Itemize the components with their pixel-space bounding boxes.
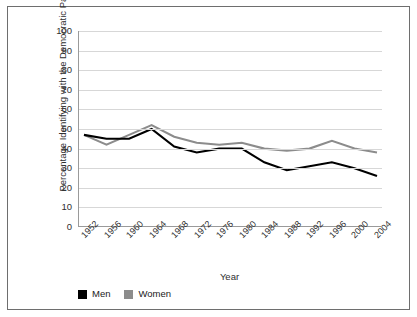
chart-legend: MenWomen bbox=[78, 289, 171, 299]
gridline bbox=[79, 90, 382, 91]
legend-swatch-icon bbox=[78, 290, 87, 299]
gridline bbox=[79, 207, 382, 208]
gridline bbox=[79, 168, 382, 169]
x-axis-title: Year bbox=[78, 271, 381, 282]
y-tick-label: 100 bbox=[46, 26, 72, 36]
gridline bbox=[79, 70, 382, 71]
y-tick-label: 70 bbox=[46, 85, 72, 95]
gridline bbox=[79, 188, 382, 189]
plot-area bbox=[78, 31, 381, 227]
y-tick-label: 30 bbox=[46, 163, 72, 173]
legend-label: Men bbox=[92, 289, 110, 299]
chart-border: Percentage Identifying with the Democrat… bbox=[7, 6, 410, 310]
y-tick-label: 60 bbox=[46, 104, 72, 114]
y-tick-label: 50 bbox=[46, 124, 72, 134]
legend-swatch-icon bbox=[124, 290, 133, 299]
y-tick-label: 20 bbox=[46, 183, 72, 193]
y-tick-label: 80 bbox=[46, 65, 72, 75]
y-tick-label: 10 bbox=[46, 202, 72, 212]
gridline bbox=[79, 149, 382, 150]
chart-figure: Percentage Identifying with the Democrat… bbox=[0, 0, 417, 317]
y-tick-label: 90 bbox=[46, 46, 72, 56]
gridline bbox=[79, 109, 382, 110]
legend-item-men: Men bbox=[78, 289, 110, 299]
gridline bbox=[79, 51, 382, 52]
y-tick-label: 0 bbox=[46, 222, 72, 232]
legend-item-women: Women bbox=[124, 289, 171, 299]
gridline bbox=[79, 31, 382, 32]
legend-label: Women bbox=[138, 289, 171, 299]
gridline bbox=[79, 129, 382, 130]
y-tick-label: 40 bbox=[46, 144, 72, 154]
